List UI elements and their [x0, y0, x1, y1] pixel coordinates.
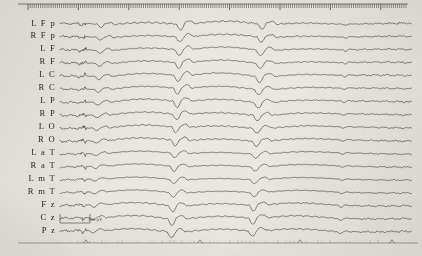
eeg-trace-canvas	[0, 0, 422, 256]
channel-label-cz: C z	[0, 213, 56, 222]
eeg-trace-lp	[60, 98, 411, 108]
channel-label-lp: L P	[0, 96, 56, 105]
calibration-label: 100 µV	[88, 217, 103, 222]
channel-label-rf: R F	[0, 57, 56, 66]
eeg-trace-lc	[60, 71, 411, 82]
channel-label-lfp: L F p	[0, 19, 56, 28]
channel-label-rp: R P	[0, 109, 56, 118]
channel-label-rmt: R m T	[0, 187, 56, 196]
top-time-ruler	[18, 4, 408, 10]
eeg-trace-lf	[60, 46, 411, 56]
bottom-timeline	[18, 240, 418, 243]
channel-label-pz: P z	[0, 226, 56, 235]
channel-label-column: L F pR F pL FR FL CR CL PR PL OR OL a TR…	[0, 0, 60, 256]
eeg-trace-lo	[60, 124, 411, 133]
channel-label-lf: L F	[0, 44, 56, 53]
eeg-trace-rat	[60, 164, 411, 172]
eeg-recording-page: L F pR F pL FR FL CR CL PR PL OR OL a TR…	[0, 0, 422, 256]
channel-label-rc: R C	[0, 83, 56, 92]
eeg-trace-ro	[60, 137, 411, 147]
channel-label-fz: F z	[0, 200, 56, 209]
eeg-trace-rc	[60, 84, 411, 94]
eeg-trace-rf	[60, 59, 411, 68]
eeg-trace-pz	[60, 228, 411, 238]
eeg-trace-lfp	[60, 21, 411, 30]
channel-label-ro: R O	[0, 135, 56, 144]
channel-label-lc: L C	[0, 70, 56, 79]
calibration-bar	[60, 214, 90, 223]
eeg-trace-lat	[60, 151, 411, 159]
eeg-trace-rmt	[60, 190, 411, 197]
channel-label-lmt: L m T	[0, 174, 56, 183]
eeg-trace-fz	[60, 202, 411, 212]
eeg-trace-lmt	[60, 177, 411, 184]
channel-label-rat: R a T	[0, 161, 56, 170]
eeg-trace-cz	[60, 215, 411, 226]
eeg-trace-rfp	[60, 33, 411, 42]
channel-label-lat: L a T	[0, 148, 56, 157]
eeg-trace-rp	[60, 111, 411, 121]
channel-label-rfp: R F p	[0, 31, 56, 40]
channel-label-lo: L O	[0, 122, 56, 131]
